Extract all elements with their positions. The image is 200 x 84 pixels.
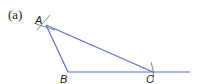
segment-ab (46, 25, 68, 72)
triangle-construction-diagram: (a) A B C (0, 0, 200, 84)
label-c: C (146, 73, 154, 84)
triangle-sides (46, 25, 190, 72)
figure-caption: (a) (8, 7, 22, 22)
segment-ac (46, 25, 153, 72)
label-a: A (34, 14, 42, 26)
label-b: B (60, 73, 67, 84)
